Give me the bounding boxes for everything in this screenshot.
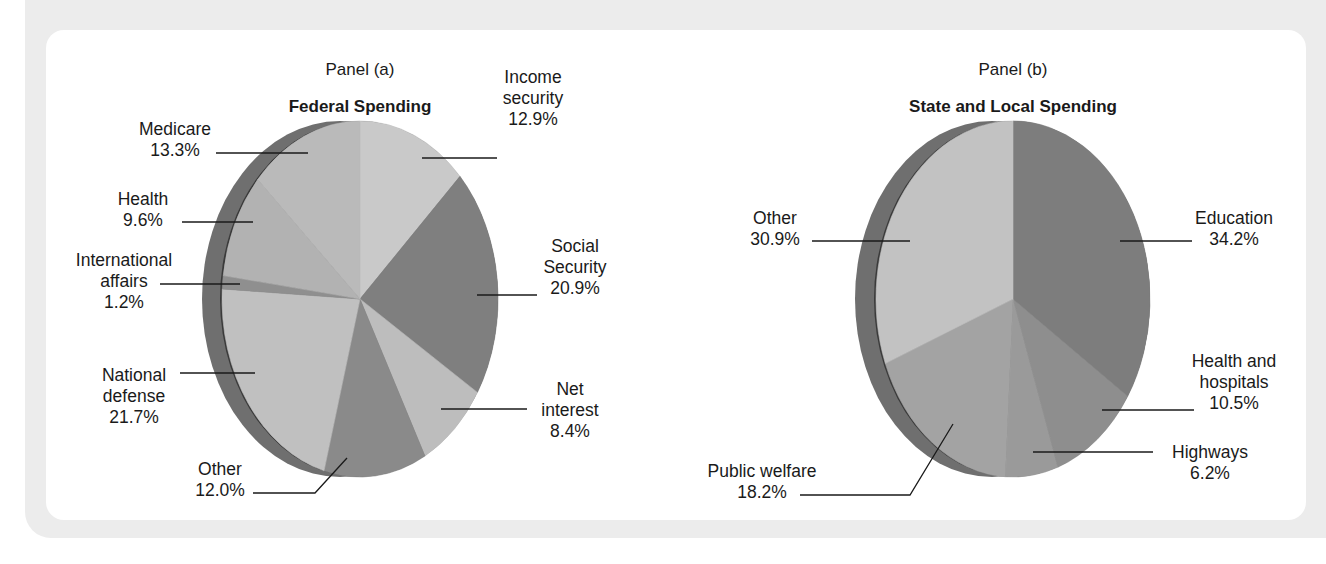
slice-label-highways: Highways6.2% xyxy=(1172,442,1248,483)
slice-label-health-and-hospitals: Health andhospitals10.5% xyxy=(1192,351,1277,413)
pie-charts-figure: Panel (a) Federal Spending Panel (b) Sta… xyxy=(0,0,1326,564)
slice-label-education: Education34.2% xyxy=(1195,208,1273,249)
panel-b-title: State and Local Spending xyxy=(909,97,1117,116)
slice-label-public-welfare: Public welfare18.2% xyxy=(708,461,817,502)
slice-label-health: Health9.6% xyxy=(118,189,169,230)
panel-a-title: Federal Spending xyxy=(289,97,432,116)
slice-label-other: Other12.0% xyxy=(195,459,245,500)
federal-spending-pie xyxy=(202,121,498,477)
slice-label-social-security: SocialSecurity20.9% xyxy=(543,236,606,298)
slice-label-national-defense: Nationaldefense21.7% xyxy=(102,365,166,427)
slice-label-other: Other30.9% xyxy=(750,208,800,249)
slice-label-international-affairs: Internationalaffairs1.2% xyxy=(76,250,172,312)
slice-label-net-interest: Netinterest8.4% xyxy=(541,379,599,441)
panel-b-label: Panel (b) xyxy=(979,60,1048,79)
slice-label-medicare: Medicare13.3% xyxy=(139,119,211,160)
state-local-spending-pie xyxy=(855,121,1150,477)
slice-label-income-security: Incomesecurity12.9% xyxy=(503,67,564,129)
panel-a-label: Panel (a) xyxy=(326,60,395,79)
